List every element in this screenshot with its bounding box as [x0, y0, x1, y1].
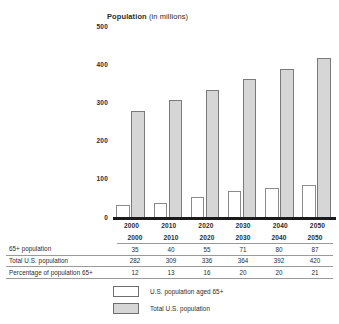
x-tick-2020: 2020 [187, 222, 224, 229]
table-row: 65+ population354055718087 [6, 243, 333, 255]
table-cell: 336 [189, 255, 225, 267]
table-cell: 71 [225, 243, 261, 255]
x-tick-2040: 2040 [262, 222, 299, 229]
bar-65plus-2010 [154, 203, 168, 218]
legend-label: U.S. population aged 65+ [150, 288, 224, 295]
table-cell: 364 [225, 255, 261, 267]
legend-swatch-gray [113, 303, 139, 314]
legend-label: Total U.S. population [150, 305, 210, 312]
bars-layer [0, 0, 339, 218]
table-cell: 282 [117, 255, 153, 267]
table-cell: 20 [225, 267, 261, 279]
table-cell: 392 [261, 255, 297, 267]
table-header-2040: 2040 [261, 232, 297, 243]
table-cell: 87 [297, 243, 333, 255]
bar-total-2040 [280, 69, 294, 218]
table-header-row: 200020102020203020402050 [6, 232, 333, 243]
x-tick-2030: 2030 [225, 222, 262, 229]
bar-65plus-2040 [265, 188, 279, 218]
bar-total-2030 [243, 79, 257, 218]
bar-total-2050 [317, 58, 331, 218]
table-row-label: 65+ population [6, 243, 117, 255]
plot-area: 5004003002001000 20002010202020302040205… [0, 0, 339, 232]
table-row: Total U.S. population282309336364392420 [6, 255, 333, 267]
bar-65plus-2050 [302, 185, 316, 218]
chart-legend: U.S. population aged 65+Total U.S. popul… [113, 284, 224, 318]
table-cell: 16 [189, 267, 225, 279]
x-tick-2010: 2010 [150, 222, 187, 229]
table-cell: 21 [297, 267, 333, 279]
bar-total-2020 [206, 90, 220, 218]
table-header-2020: 2020 [189, 232, 225, 243]
table-row-label: Total U.S. population [6, 255, 117, 267]
table-cell: 55 [189, 243, 225, 255]
bar-total-2000 [131, 111, 145, 218]
legend-item: Total U.S. population [113, 301, 224, 315]
table-cell: 80 [261, 243, 297, 255]
bar-65plus-2000 [116, 205, 130, 218]
legend-swatch-white [113, 286, 139, 297]
x-tick-2000: 2000 [113, 222, 150, 229]
legend-item: U.S. population aged 65+ [113, 284, 224, 298]
table-header-2050: 2050 [297, 232, 333, 243]
table-header-2000: 2000 [117, 232, 153, 243]
table-cell: 12 [117, 267, 153, 279]
bar-65plus-2030 [228, 191, 242, 218]
bar-65plus-2020 [191, 197, 205, 218]
table-row: Percentage of population 65+121316202021 [6, 267, 333, 279]
bar-total-2010 [169, 100, 183, 218]
x-axis-line [113, 217, 336, 220]
table-cell: 309 [153, 255, 189, 267]
table-cell: 35 [117, 243, 153, 255]
x-tick-2050: 2050 [299, 222, 336, 229]
table-header-blank [6, 232, 117, 243]
table-cell: 20 [261, 267, 297, 279]
table-header-2030: 2030 [225, 232, 261, 243]
table-row-label: Percentage of population 65+ [6, 267, 117, 279]
table-cell: 13 [153, 267, 189, 279]
table-cell: 420 [297, 255, 333, 267]
table-cell: 40 [153, 243, 189, 255]
chart-page: Population (in millions) 500400300200100… [0, 0, 339, 324]
table-header-2010: 2010 [153, 232, 189, 243]
data-table: 20002010202020302040205065+ population35… [6, 232, 333, 279]
